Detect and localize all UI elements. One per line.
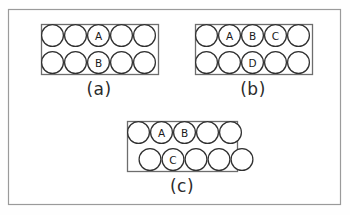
circle-label-b: B — [181, 127, 188, 139]
packing-circle — [111, 52, 133, 74]
packing-circle — [208, 149, 230, 171]
panel-a: AB — [42, 25, 159, 75]
circle-label-b: B — [249, 30, 256, 42]
figure-container: AB ABCD ABC (a) (b) (c) — [0, 0, 350, 215]
circle-label-c: C — [272, 30, 279, 42]
panel-c: ABC — [128, 122, 253, 172]
packing-circle — [288, 25, 310, 47]
packing-circle — [139, 149, 161, 171]
caption-a: (a) — [86, 79, 111, 99]
circle-label-d: D — [248, 57, 256, 69]
packing-circle — [196, 52, 218, 74]
circle-label-c: C — [169, 154, 176, 166]
packing-circle — [265, 52, 287, 74]
packing-circle — [65, 25, 87, 47]
panel-b: ABCD — [196, 25, 313, 75]
packing-circle — [42, 25, 64, 47]
packing-circle — [220, 122, 242, 144]
packing-circle — [42, 52, 64, 74]
packing-circle — [128, 122, 150, 144]
circle-label-b: B — [95, 57, 102, 69]
circle-packing-figure: AB ABCD ABC (a) (b) (c) — [0, 0, 350, 215]
packing-circle — [197, 122, 219, 144]
packing-circle — [219, 52, 241, 74]
packing-circle — [65, 52, 87, 74]
packing-circle — [111, 25, 133, 47]
circle-label-a: A — [226, 30, 234, 42]
packing-circle — [134, 52, 156, 74]
packing-circle — [196, 25, 218, 47]
circle-label-a: A — [158, 127, 166, 139]
caption-c: (c) — [170, 176, 194, 196]
caption-b: (b) — [240, 79, 266, 99]
packing-circle — [231, 149, 253, 171]
packing-circle — [134, 25, 156, 47]
packing-circle — [288, 52, 310, 74]
circle-label-a: A — [95, 30, 103, 42]
packing-circle — [185, 149, 207, 171]
